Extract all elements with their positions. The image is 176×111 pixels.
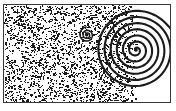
small-spiral-vortex-core [86,34,89,37]
figure-canvas: Stippled flow field with two spiral vort… [0,0,176,111]
figure-frame-border [3,4,171,103]
vortex-overlay-layer [4,5,170,102]
large-spiral-vortex-core [134,48,138,52]
large-spiral-vortex [98,11,170,86]
